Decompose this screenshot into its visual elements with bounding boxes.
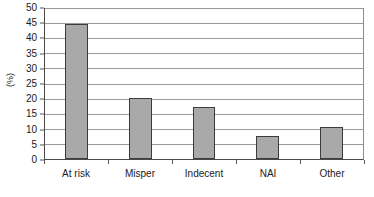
y-axis-tick-label: 30 — [26, 64, 37, 74]
x-axis-tick-mark — [172, 160, 173, 164]
bar — [320, 127, 343, 159]
y-axis-tick-label: 25 — [26, 79, 37, 89]
x-axis-tick-mark — [300, 160, 301, 164]
y-axis-tick-label: 0 — [31, 155, 37, 165]
bar-chart: (%) 05101520253035404550 At riskMisperIn… — [0, 0, 374, 197]
x-axis-tick-marks — [44, 160, 364, 165]
plot-area — [44, 8, 364, 160]
y-axis-title-text: (%) — [5, 73, 15, 87]
bar-slot — [299, 8, 363, 159]
bar-series — [45, 8, 363, 159]
bar — [129, 98, 152, 159]
x-axis-tick-mark — [236, 160, 237, 164]
x-axis-tick-mark — [108, 160, 109, 164]
y-axis-tick-label: 20 — [26, 94, 37, 104]
x-axis-tick-mark — [364, 160, 365, 164]
y-axis-tick-label: 10 — [26, 125, 37, 135]
x-axis-tick-label: NAI — [236, 168, 300, 180]
y-axis-tick-label: 50 — [26, 3, 37, 13]
x-axis-tick-label: Other — [300, 168, 364, 180]
x-axis-tick-label: Indecent — [172, 168, 236, 180]
y-axis-tick-label: 15 — [26, 109, 37, 119]
x-axis-tick-label: At risk — [44, 168, 108, 180]
bar-slot — [45, 8, 109, 159]
bar — [65, 24, 88, 159]
y-axis-tick-label: 35 — [26, 49, 37, 59]
y-axis-tick-labels: 05101520253035404550 — [16, 8, 40, 160]
x-axis-tick-mark — [44, 160, 45, 164]
bar-slot — [109, 8, 173, 159]
x-axis-tick-labels: At riskMisperIndecentNAIOther — [44, 168, 364, 180]
bar — [256, 136, 279, 159]
bar-slot — [236, 8, 300, 159]
y-axis-tick-label: 5 — [31, 140, 37, 150]
y-axis-tick-label: 45 — [26, 18, 37, 28]
bar — [193, 107, 216, 159]
bar-slot — [172, 8, 236, 159]
x-axis-tick-label: Misper — [108, 168, 172, 180]
y-axis-tick-label: 40 — [26, 33, 37, 43]
